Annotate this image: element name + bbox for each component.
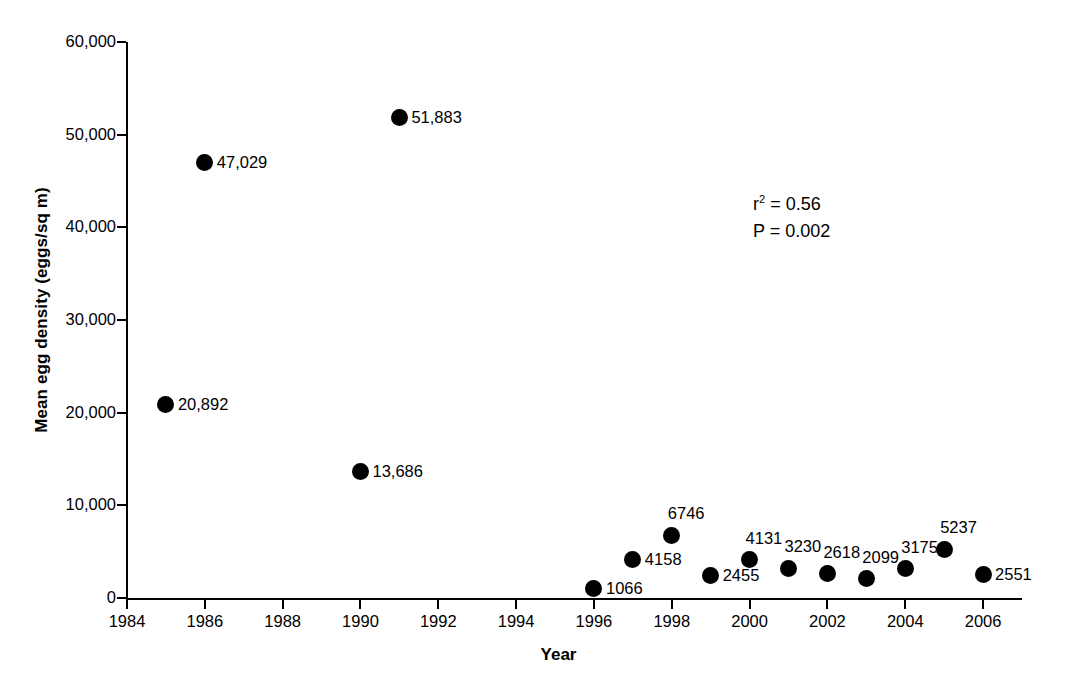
x-tick-label: 1988 (243, 612, 323, 631)
x-tick-mark (904, 600, 906, 609)
scatter-chart: Mean egg density (eggs/sq m) 010,00020,0… (0, 0, 1067, 694)
x-axis-title-label: Year (541, 645, 577, 665)
statistics-annotation: r2 = 0.56 P = 0.002 (753, 186, 830, 245)
x-tick-mark (359, 600, 361, 609)
y-tick-mark (117, 226, 126, 228)
x-tick-label: 2000 (710, 612, 790, 631)
data-point (391, 109, 408, 126)
data-point-label: 5237 (940, 519, 977, 535)
data-point-label: 4131 (746, 530, 783, 546)
data-point (352, 463, 369, 480)
data-point (780, 560, 797, 577)
data-point (624, 551, 641, 568)
data-point-label: 2618 (823, 544, 860, 560)
data-point-label: 6746 (668, 505, 705, 521)
data-point-label: 2455 (723, 567, 760, 583)
x-tick-mark (826, 600, 828, 609)
data-point-label: 20,892 (178, 396, 228, 412)
y-tick-mark (117, 134, 126, 136)
y-tick-label: 50,000 (8, 126, 116, 142)
x-tick-mark (671, 600, 673, 609)
x-tick-mark (282, 600, 284, 609)
y-tick-mark (117, 319, 126, 321)
data-point-label: 51,883 (411, 109, 461, 125)
p-value-annotation: P = 0.002 (753, 218, 830, 245)
y-tick-mark (117, 412, 126, 414)
r-squared-value: = 0.56 (765, 194, 821, 214)
y-axis-title: Mean egg density (eggs/sq m) (32, 90, 52, 530)
data-point-label: 2551 (995, 566, 1032, 582)
data-point (936, 541, 953, 558)
y-tick-mark (117, 597, 126, 599)
x-tick-label: 1996 (554, 612, 634, 631)
y-tick-label: 20,000 (8, 404, 116, 420)
data-point (663, 527, 680, 544)
x-tick-label: 1990 (320, 612, 400, 631)
data-point (196, 154, 213, 171)
x-tick-label: 1986 (165, 612, 245, 631)
x-tick-mark (593, 600, 595, 609)
data-point (897, 560, 914, 577)
x-tick-mark (515, 600, 517, 609)
data-point-label: 3230 (785, 538, 822, 554)
r-squared-annotation: r2 = 0.56 (753, 186, 830, 218)
y-tick-label: 60,000 (8, 33, 116, 49)
x-tick-mark (126, 600, 128, 609)
data-point (702, 567, 719, 584)
x-tick-mark (982, 600, 984, 609)
x-tick-label: 1984 (87, 612, 167, 631)
data-point-label: 47,029 (217, 154, 267, 170)
x-tick-label: 1994 (476, 612, 556, 631)
x-tick-mark (749, 600, 751, 609)
data-point (975, 566, 992, 583)
x-tick-label: 2006 (943, 612, 1023, 631)
data-point (819, 565, 836, 582)
data-point-label: 2099 (862, 549, 899, 565)
y-tick-label: 30,000 (8, 311, 116, 327)
x-axis-title: Year (0, 645, 1067, 665)
data-point (157, 396, 174, 413)
x-tick-label: 1998 (632, 612, 712, 631)
x-tick-mark (204, 600, 206, 609)
y-tick-label: 10,000 (8, 496, 116, 512)
data-point-label: 13,686 (372, 463, 422, 479)
y-tick-mark (117, 504, 126, 506)
x-tick-label: 1992 (398, 612, 478, 631)
data-point (858, 570, 875, 587)
data-point-label: 3175 (901, 539, 938, 555)
y-tick-label: 40,000 (8, 218, 116, 234)
y-tick-label: 0 (8, 589, 116, 605)
x-tick-label: 2004 (865, 612, 945, 631)
data-point (585, 580, 602, 597)
y-tick-mark (117, 41, 126, 43)
x-axis-line (126, 598, 1022, 600)
y-axis-line (126, 42, 128, 600)
data-point-label: 4158 (645, 551, 682, 567)
x-tick-mark (437, 600, 439, 609)
x-tick-label: 2002 (787, 612, 867, 631)
data-point-label: 1066 (606, 580, 643, 596)
